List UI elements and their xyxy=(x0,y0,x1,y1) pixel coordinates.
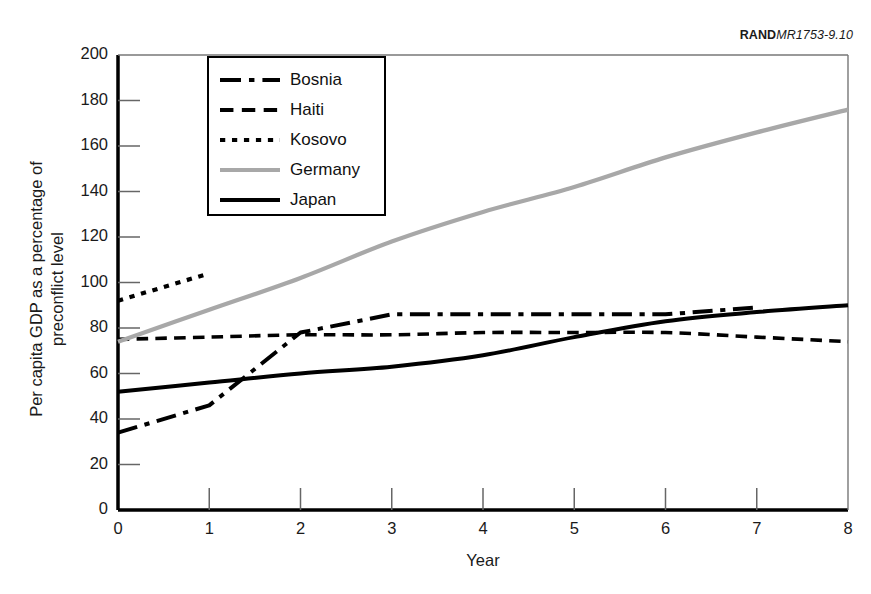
legend-label: Bosnia xyxy=(290,71,342,88)
legend-item-bosnia: Bosnia xyxy=(209,64,384,95)
chart-legend: BosniaHaitiKosovoGermanyJapan xyxy=(207,56,386,216)
series-line-bosnia xyxy=(118,308,757,433)
series-line-japan xyxy=(118,305,848,391)
legend-swatch-haiti-icon xyxy=(219,103,281,117)
y-axis-ticks xyxy=(118,101,140,465)
legend-swatch-germany-icon xyxy=(219,163,281,177)
series-line-kosovo xyxy=(118,273,209,300)
legend-label: Germany xyxy=(290,161,360,178)
chart-plot-area xyxy=(0,0,871,594)
legend-item-germany: Germany xyxy=(209,154,384,185)
legend-item-haiti: Haiti xyxy=(209,94,384,125)
legend-item-kosovo: Kosovo xyxy=(209,124,384,155)
legend-swatch-bosnia-icon xyxy=(219,73,281,87)
legend-swatch-japan-icon xyxy=(219,193,281,207)
legend-label: Kosovo xyxy=(290,131,347,148)
legend-item-japan: Japan xyxy=(209,184,384,215)
x-axis-ticks xyxy=(209,488,757,510)
series-line-haiti xyxy=(118,332,848,341)
figure-container: RANDMR1753-9.10 Per capita GDP as a perc… xyxy=(0,0,871,594)
legend-label: Haiti xyxy=(290,101,324,118)
legend-label: Japan xyxy=(290,191,336,208)
legend-swatch-kosovo-icon xyxy=(219,133,281,147)
